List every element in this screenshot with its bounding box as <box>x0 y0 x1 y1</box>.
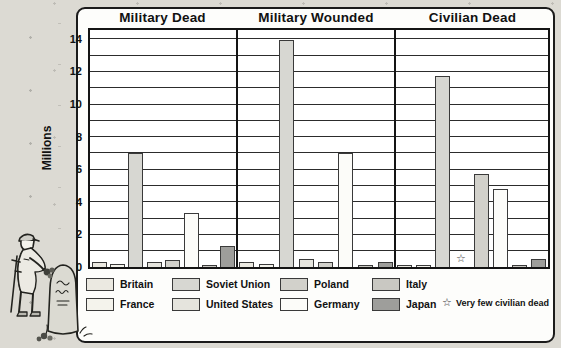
bar-poland-military-wounded <box>318 262 333 267</box>
y-tick-4: 4 <box>48 195 82 209</box>
legend-label-soviet-union: Soviet Union <box>206 278 270 291</box>
legend-label-italy: Italy <box>406 278 427 291</box>
gridline-7m <box>90 152 548 153</box>
legend-swatch-italy <box>372 278 400 291</box>
y-tick-14: 14 <box>48 32 82 46</box>
gridline-13m <box>90 55 548 56</box>
gridline-11m <box>90 87 548 88</box>
bar-germany-military-dead <box>184 213 199 267</box>
bar-britain-civilian-dead <box>397 265 412 267</box>
legend-swatch-germany <box>280 298 308 311</box>
panel-divider-1 <box>236 30 238 267</box>
legend-label-france: France <box>120 298 154 311</box>
bar-france-civilian-dead <box>416 265 431 267</box>
bar-germany-military-wounded <box>338 153 353 267</box>
gridline-14m <box>90 38 548 39</box>
group-title-military-dead: Military Dead <box>88 10 237 25</box>
bar-italy-military-dead <box>202 265 217 267</box>
y-tick-12: 12 <box>48 64 82 78</box>
bar-soviet-union-civilian-dead <box>435 76 450 267</box>
very-few-civilian-dead-note: Very few civilian dead <box>456 297 549 310</box>
plot-area: ☆ <box>88 28 550 269</box>
legend-label-united-states: United States <box>206 298 273 311</box>
y-tick-8: 8 <box>48 130 82 144</box>
bar-united-states-military-dead <box>147 262 162 267</box>
group-title-military-wounded: Military Wounded <box>237 10 395 25</box>
bar-italy-military-wounded <box>358 265 373 267</box>
legend-swatch-poland <box>280 278 308 291</box>
very-few-star-united-states: ☆ <box>456 252 466 265</box>
bar-france-military-wounded <box>259 264 274 267</box>
gridline-9m <box>90 120 548 121</box>
bar-united-states-military-wounded <box>299 259 314 267</box>
legend-swatch-united-states <box>172 298 200 311</box>
y-tick-10: 10 <box>48 97 82 111</box>
star-icon: ☆ <box>442 297 452 308</box>
bar-poland-civilian-dead <box>474 174 489 267</box>
bar-japan-military-dead <box>220 246 235 267</box>
bar-italy-civilian-dead <box>512 265 527 267</box>
group-title-civilian-dead: Civilian Dead <box>395 10 550 25</box>
legend-label-japan: Japan <box>406 298 436 311</box>
bar-poland-military-dead <box>165 260 180 267</box>
bar-soviet-union-military-wounded <box>279 40 294 267</box>
gridline-8m <box>90 136 548 137</box>
gridline-6m <box>90 169 548 170</box>
bar-germany-civilian-dead <box>493 189 508 267</box>
gridline-10m <box>90 104 548 105</box>
soldier-gravestone-illustration <box>0 226 96 348</box>
bar-france-military-dead <box>110 264 125 267</box>
bar-japan-military-wounded <box>378 262 393 267</box>
legend-swatch-soviet-union <box>172 278 200 291</box>
legend-label-poland: Poland <box>314 278 349 291</box>
legend-label-germany: Germany <box>314 298 360 311</box>
legend-label-britain: Britain <box>120 278 153 291</box>
bar-soviet-union-military-dead <box>128 153 143 267</box>
bar-britain-military-wounded <box>239 262 254 267</box>
panel-divider-2 <box>394 30 396 267</box>
page: Military Dead Military Wounded Civilian … <box>0 0 561 348</box>
y-tick-6: 6 <box>48 162 82 176</box>
bar-japan-civilian-dead <box>531 259 546 267</box>
gridline-12m <box>90 71 548 72</box>
legend-swatch-japan <box>372 298 400 311</box>
